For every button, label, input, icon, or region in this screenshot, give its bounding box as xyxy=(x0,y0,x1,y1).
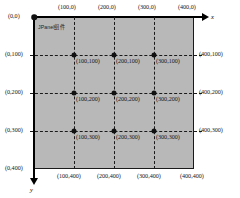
label-bottom-400: (400,400) xyxy=(180,173,204,179)
label-left-100: (0,100) xyxy=(5,51,23,57)
label-bottom-100: (100,400) xyxy=(57,173,81,179)
label-right-300: (400,300) xyxy=(199,127,223,133)
label-point-200-100: (200,100) xyxy=(116,58,140,64)
label-top-200: (200,0) xyxy=(98,4,116,10)
label-right-200: (400,200) xyxy=(199,89,223,95)
data-point-origin xyxy=(31,14,37,20)
data-point xyxy=(112,53,117,58)
panel-label: JPanel组件 xyxy=(38,23,65,30)
x-axis-label: x xyxy=(211,13,214,20)
label-point-100-300: (100,300) xyxy=(76,134,100,140)
data-point xyxy=(112,129,117,134)
y-axis-label: y xyxy=(30,186,33,193)
coordinate-diagram: JPanel组件 x y (0,0) (100,0) (200,0) (300,… xyxy=(0,0,240,198)
label-bottom-200: (200,400) xyxy=(97,173,121,179)
label-point-100-200: (100,200) xyxy=(76,96,100,102)
x-axis-arrow-icon xyxy=(202,13,209,21)
label-top-400: (400,0) xyxy=(178,4,196,10)
label-point-100-100: (100,100) xyxy=(76,58,100,64)
y-axis-arrow-icon xyxy=(30,178,38,185)
data-point xyxy=(112,91,117,96)
label-origin: (0,0) xyxy=(8,13,20,19)
label-point-200-200: (200,200) xyxy=(116,96,140,102)
label-point-300-100: (300,100) xyxy=(156,58,180,64)
label-left-400: (0,400) xyxy=(5,165,23,171)
data-point xyxy=(152,129,157,134)
label-point-200-300: (200,300) xyxy=(116,134,140,140)
data-point xyxy=(152,53,157,58)
y-axis-line xyxy=(33,17,35,180)
label-bottom-300: (300,400) xyxy=(137,173,161,179)
data-point xyxy=(152,91,157,96)
label-right-100: (400,100) xyxy=(199,51,223,57)
data-point xyxy=(72,53,77,58)
label-top-300: (300,0) xyxy=(138,4,156,10)
label-left-300: (0,300) xyxy=(5,127,23,133)
label-top-100: (100,0) xyxy=(58,4,76,10)
data-point xyxy=(72,129,77,134)
label-point-300-300: (300,300) xyxy=(156,134,180,140)
x-axis-line xyxy=(34,16,204,18)
data-point xyxy=(72,91,77,96)
label-left-200: (0,200) xyxy=(5,89,23,95)
label-point-300-200: (300,200) xyxy=(156,96,180,102)
